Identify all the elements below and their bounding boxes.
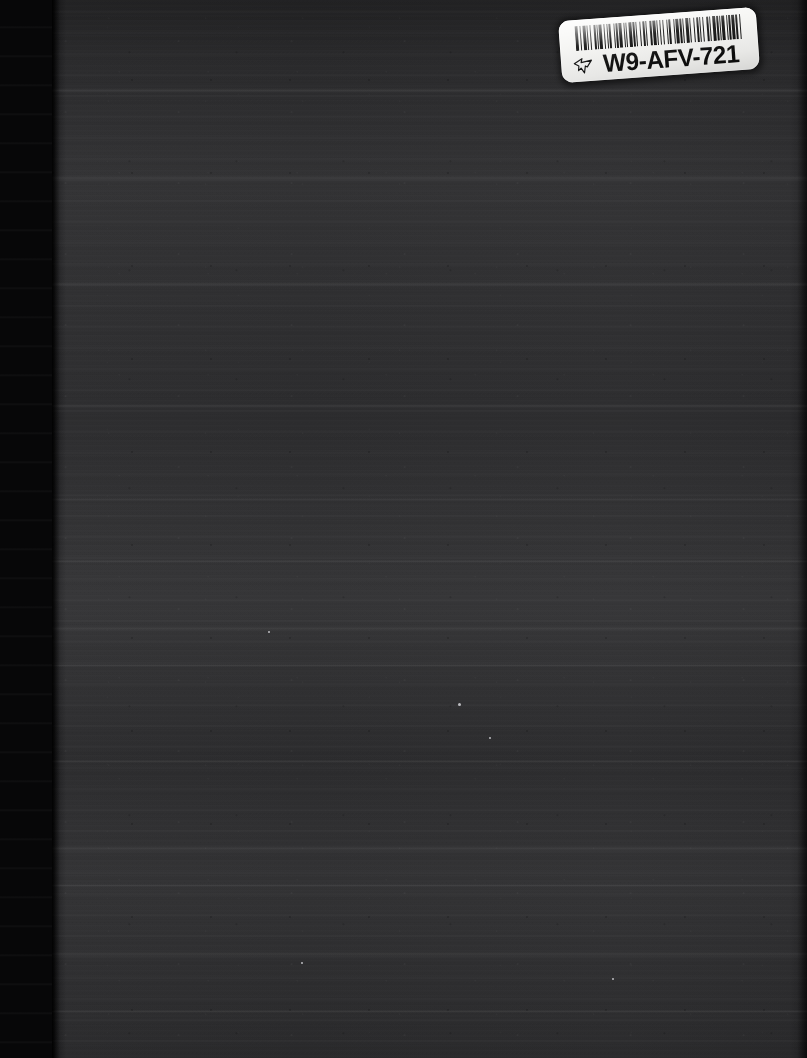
barcode-label: W9-AFV-721: [558, 7, 760, 83]
scan-surface: [0, 0, 807, 1058]
barcode-code-text: W9-AFV-721: [602, 41, 740, 76]
pointing-hand-icon: [571, 53, 595, 76]
barcode-space: [740, 14, 745, 39]
scanned-page: W9-AFV-721: [0, 0, 807, 1058]
